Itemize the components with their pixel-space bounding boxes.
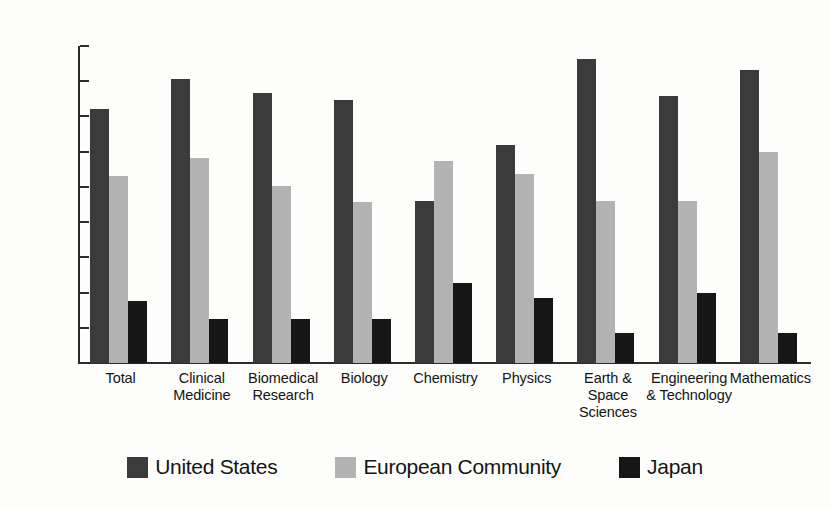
bar <box>334 100 353 363</box>
bar <box>778 333 797 363</box>
bar <box>678 201 697 363</box>
bar <box>291 319 310 363</box>
bar <box>496 145 515 363</box>
x-axis-category-labels: TotalClinicalMedicineBiomedicalResearchB… <box>80 370 811 436</box>
bar <box>171 79 190 363</box>
bar <box>453 283 472 363</box>
bars-layer <box>80 46 811 363</box>
bar <box>740 70 759 363</box>
category-label-line: Sciences <box>557 404 658 421</box>
bar <box>253 93 272 363</box>
bar <box>415 201 434 363</box>
bar-group <box>496 46 553 363</box>
bar <box>209 319 228 363</box>
bar-chart: 0%5%10%15%20%25%30%35%40%45% TotalClinic… <box>0 0 830 508</box>
bar <box>759 152 778 363</box>
legend-swatch-icon <box>335 457 356 478</box>
legend-swatch-icon <box>619 457 640 478</box>
chart-legend: United StatesEuropean CommunityJapan <box>0 444 830 490</box>
bar <box>577 59 596 363</box>
plot-area: 0%5%10%15%20%25%30%35%40%45% TotalClinic… <box>0 0 830 440</box>
legend-item[interactable]: Japan <box>619 455 703 479</box>
bar <box>515 174 534 363</box>
bar <box>353 202 372 363</box>
bar-group <box>253 46 310 363</box>
legend-swatch-icon <box>127 457 148 478</box>
bar <box>272 186 291 363</box>
bar <box>697 293 716 363</box>
bar <box>372 319 391 363</box>
bar-group <box>90 46 147 363</box>
bar <box>128 301 147 363</box>
bar-group <box>171 46 228 363</box>
legend-item[interactable]: European Community <box>335 455 561 479</box>
bar <box>434 161 453 363</box>
bar <box>190 158 209 363</box>
category-label-line: Research <box>232 387 333 404</box>
bar <box>615 333 634 363</box>
category-label-line: Mathematics <box>720 370 821 387</box>
legend-label: European Community <box>363 455 561 479</box>
bar <box>109 176 128 363</box>
bar <box>534 298 553 364</box>
bar-group <box>415 46 472 363</box>
bar-group <box>740 46 797 363</box>
bar <box>659 96 678 363</box>
category-label-line: & Technology <box>639 387 740 404</box>
bar-group <box>334 46 391 363</box>
bar-group <box>659 46 716 363</box>
bar <box>90 109 109 363</box>
legend-item[interactable]: United States <box>127 455 277 479</box>
category-label: Mathematics <box>720 370 821 387</box>
legend-label: Japan <box>647 455 703 479</box>
legend-label: United States <box>155 455 277 479</box>
bar-group <box>577 46 634 363</box>
bar <box>596 201 615 363</box>
